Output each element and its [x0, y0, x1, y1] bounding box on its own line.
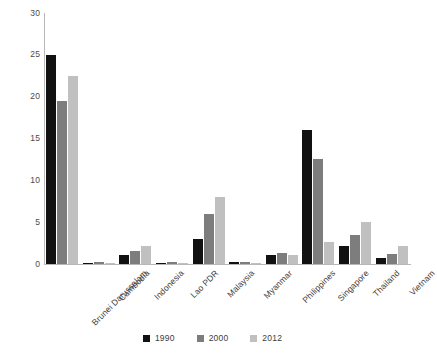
- y-tick-label: 20: [6, 92, 40, 101]
- x-label-slot: Indonesia: [117, 266, 154, 328]
- bar-2000-lao-pdr: [167, 262, 177, 265]
- bar-2000-myanmar: [240, 262, 250, 264]
- bar-groups: [44, 13, 410, 264]
- bar-1990-singapore: [302, 130, 312, 264]
- bar-group: [190, 13, 227, 264]
- bar-1990-philippines: [266, 255, 276, 264]
- y-tick-label: 10: [6, 176, 40, 185]
- bar-2012-malaysia: [215, 197, 225, 264]
- legend-swatch-icon: [197, 335, 204, 342]
- bar-2000-malaysia: [204, 214, 214, 264]
- bar-1990-myanmar: [229, 262, 239, 264]
- legend-label: 1990: [155, 334, 175, 343]
- bar-2012-myanmar: [251, 263, 261, 264]
- x-axis-category-labels: Brunei DarussalamCambodiaIndonesiaLao PD…: [44, 266, 410, 328]
- bar-2000-vietnam: [387, 254, 397, 264]
- bar-group: [373, 13, 410, 264]
- bar-group: [117, 13, 154, 264]
- x-label-slot: Singapore: [300, 266, 337, 328]
- legend-swatch-icon: [250, 335, 257, 342]
- bar-group: [300, 13, 337, 264]
- bar-2012-philippines: [288, 255, 298, 264]
- bar-2000-thailand: [350, 235, 360, 264]
- bar-2000-indonesia: [130, 251, 140, 264]
- x-label-slot: Brunei Darussalam: [44, 266, 81, 328]
- bar-2012-vietnam: [398, 246, 408, 264]
- x-tick-label: Vietnam: [407, 268, 437, 298]
- bar-1990-indonesia: [119, 255, 129, 264]
- bar-2012-cambodia: [105, 263, 115, 264]
- bar-group: [44, 13, 81, 264]
- bar-1990-thailand: [339, 246, 349, 264]
- bar-2012-thailand: [361, 222, 371, 264]
- bar-1990-cambodia: [83, 263, 93, 264]
- bar-2012-brunei-darussalam: [68, 76, 78, 264]
- x-label-slot: Malaysia: [190, 266, 227, 328]
- bar-group: [81, 13, 118, 264]
- bar-2000-cambodia: [94, 262, 104, 265]
- bar-2012-lao-pdr: [178, 263, 188, 264]
- bar-1990-vietnam: [376, 258, 386, 264]
- bar-group: [227, 13, 264, 264]
- x-axis-line: [44, 264, 411, 265]
- y-tick-label: 15: [6, 134, 40, 143]
- x-label-slot: Thailand: [337, 266, 374, 328]
- bar-2000-philippines: [277, 253, 287, 264]
- legend-item-2012[interactable]: 2012: [250, 334, 282, 343]
- bar-1990-brunei-darussalam: [46, 55, 56, 264]
- x-label-slot: Philippines: [264, 266, 301, 328]
- bar-2000-singapore: [313, 159, 323, 264]
- bar-1990-lao-pdr: [156, 263, 166, 264]
- y-tick-label: 0: [6, 260, 40, 269]
- bar-1990-malaysia: [193, 239, 203, 264]
- chart-legend: 199020002012: [0, 334, 425, 343]
- x-label-slot: Myanmar: [227, 266, 264, 328]
- y-tick-label: 30: [6, 9, 40, 18]
- bar-group: [337, 13, 374, 264]
- legend-item-1990[interactable]: 1990: [143, 334, 175, 343]
- legend-item-2000[interactable]: 2000: [197, 334, 229, 343]
- bar-group: [264, 13, 301, 264]
- legend-label: 2000: [209, 334, 229, 343]
- legend-label: 2012: [262, 334, 282, 343]
- bar-2000-brunei-darussalam: [57, 101, 67, 264]
- y-axis-tick-labels: 051015202530: [0, 13, 40, 264]
- y-tick-label: 5: [6, 218, 40, 227]
- plot-area: [44, 13, 410, 264]
- y-tick-label: 25: [6, 50, 40, 59]
- x-label-slot: Lao PDR: [154, 266, 191, 328]
- x-label-slot: Cambodia: [81, 266, 118, 328]
- x-label-slot: Vietnam: [373, 266, 410, 328]
- bar-group: [154, 13, 191, 264]
- legend-swatch-icon: [143, 335, 150, 342]
- bar-2012-singapore: [324, 242, 334, 264]
- bar-2012-indonesia: [141, 246, 151, 264]
